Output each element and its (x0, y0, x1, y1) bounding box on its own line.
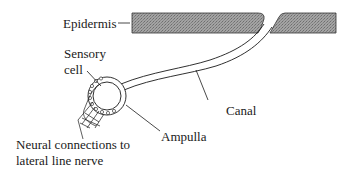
label-sensory-cell-line1: Sensory (64, 46, 106, 61)
label-neural-line1: Neural connections to (16, 137, 130, 152)
label-neural-line2: lateral line nerve (16, 153, 103, 168)
label-sensory-cell-line2: cell (64, 62, 83, 77)
ampulla (88, 77, 126, 115)
label-epidermis: Epidermis (63, 16, 116, 31)
label-canal: Canal (226, 103, 256, 118)
epidermis-layer (132, 13, 336, 33)
canal (121, 24, 272, 90)
label-ampulla: Ampulla (161, 129, 207, 144)
